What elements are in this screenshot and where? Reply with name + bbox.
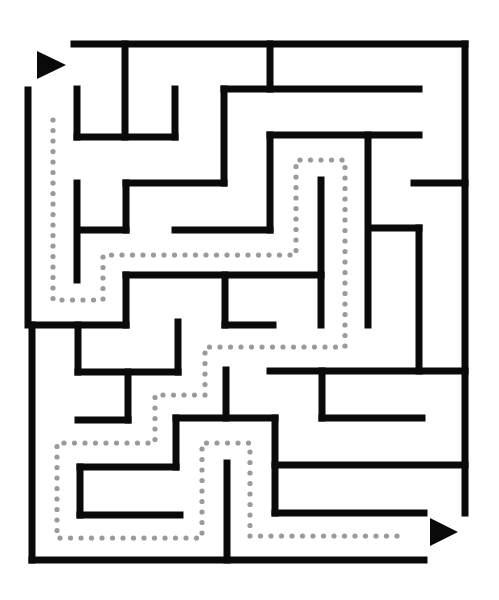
path-dot <box>342 228 347 233</box>
path-dot <box>363 533 368 538</box>
path-dot <box>342 238 347 243</box>
path-dot <box>199 446 204 451</box>
maze-board <box>0 0 499 600</box>
path-dot <box>331 533 336 538</box>
path-dot <box>238 344 243 349</box>
path-dot <box>293 206 298 211</box>
path-dot <box>246 440 251 445</box>
path-dot <box>171 392 176 397</box>
path-dot <box>247 460 252 465</box>
path-dot <box>151 252 156 257</box>
path-dot <box>247 533 252 538</box>
path-dot <box>89 535 94 540</box>
path-dot <box>214 440 219 445</box>
path-dot <box>135 440 140 445</box>
path-dot <box>54 496 59 501</box>
path-dot <box>100 254 105 259</box>
path-dot <box>199 530 204 535</box>
path-dot <box>247 449 252 454</box>
path-dot <box>192 392 197 397</box>
path-dot <box>300 533 305 538</box>
path-dot <box>342 533 347 538</box>
path-dot <box>342 291 347 296</box>
path-dot <box>268 533 273 538</box>
path-dot <box>228 344 233 349</box>
path-dot <box>202 350 207 355</box>
path-dot <box>172 252 177 257</box>
path-dot <box>140 252 145 257</box>
path-dot <box>50 264 55 269</box>
path-dot <box>199 488 204 493</box>
path-dot <box>57 535 62 540</box>
path-dot <box>199 520 204 525</box>
path-dot <box>50 149 55 154</box>
path-dot <box>120 535 125 540</box>
maze-puzzle: Maze puzzle with solution path <box>0 0 499 600</box>
path-dot <box>61 440 66 445</box>
path-dot <box>342 207 347 212</box>
path-dot <box>50 201 55 206</box>
path-dot <box>270 344 275 349</box>
path-dot <box>247 470 252 475</box>
path-dot <box>50 159 55 164</box>
path-dot <box>72 440 77 445</box>
path-dot <box>342 186 347 191</box>
path-dot <box>342 249 347 254</box>
path-dot <box>93 440 98 445</box>
path-dot <box>342 217 347 222</box>
path-dot <box>202 361 207 366</box>
path-dot <box>247 502 252 507</box>
path-dot <box>293 164 298 169</box>
path-dot <box>54 507 59 512</box>
path-dot <box>342 259 347 264</box>
path-dot <box>297 157 302 162</box>
path-dot <box>329 157 334 162</box>
path-dot <box>50 254 55 259</box>
path-dot <box>50 285 55 290</box>
path-dot <box>293 195 298 200</box>
path-dot <box>342 165 347 170</box>
path-dot <box>54 528 59 533</box>
path-dot <box>342 280 347 285</box>
path-dot <box>82 440 87 445</box>
path-dot <box>204 440 209 445</box>
path-dot <box>384 533 389 538</box>
path-dot <box>235 440 240 445</box>
path-dot <box>202 371 207 376</box>
path-dot <box>342 333 347 338</box>
path-dot <box>256 252 261 257</box>
path-dot <box>124 440 129 445</box>
path-dot <box>54 517 59 522</box>
path-dot <box>59 297 64 302</box>
path-dot <box>161 252 166 257</box>
path-dot <box>50 180 55 185</box>
path-dot <box>50 222 55 227</box>
finish-arrow-icon <box>430 518 458 546</box>
path-dot <box>100 265 105 270</box>
path-dot <box>152 437 157 442</box>
path-dot <box>50 296 55 301</box>
path-dot <box>224 252 229 257</box>
path-dot <box>352 533 357 538</box>
path-dot <box>152 416 157 421</box>
path-dot <box>333 344 338 349</box>
path-dot <box>280 344 285 349</box>
path-dot <box>258 533 263 538</box>
path-dot <box>293 174 298 179</box>
path-dot <box>109 252 114 257</box>
path-dot <box>394 533 399 538</box>
path-dot <box>199 467 204 472</box>
path-dot <box>199 478 204 483</box>
path-dot <box>214 252 219 257</box>
path-dot <box>247 481 252 486</box>
path-dot <box>50 191 55 196</box>
path-dot <box>199 499 204 504</box>
path-dot <box>293 185 298 190</box>
path-dot <box>50 128 55 133</box>
path-dot <box>173 535 178 540</box>
path-dot <box>50 275 55 280</box>
path-dot <box>293 216 298 221</box>
path-dot <box>194 535 199 540</box>
path-dot <box>50 243 55 248</box>
path-dot <box>54 454 59 459</box>
